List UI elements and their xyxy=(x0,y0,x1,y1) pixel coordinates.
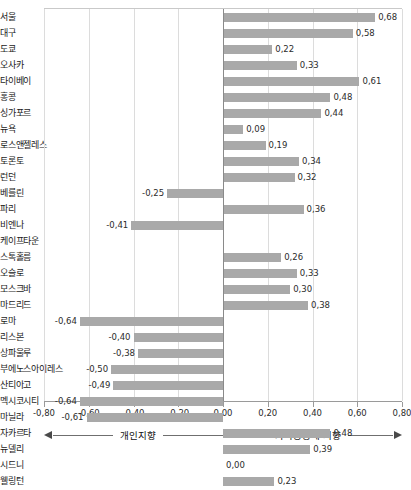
bar xyxy=(223,445,310,454)
bar-value-label: -0,25 xyxy=(142,186,164,201)
bar-value-label: 0,22 xyxy=(275,42,294,57)
bar-row: 0,23 xyxy=(44,474,402,490)
bar xyxy=(167,189,223,198)
category-label: 뉴델리 xyxy=(0,441,40,457)
bar-value-label: -0,38 xyxy=(113,346,135,361)
category-label: 싱가포르 xyxy=(0,105,40,121)
bar-value-label: 0,61 xyxy=(362,74,381,89)
bar-value-label: -0,41 xyxy=(106,218,128,233)
category-label: 로스앤젤레스 xyxy=(0,137,40,153)
bar xyxy=(223,157,299,166)
category-label: 파리 xyxy=(0,201,40,217)
bar xyxy=(223,477,274,486)
category-label: 산티아고 xyxy=(0,377,40,393)
bar-value-label: 0,48 xyxy=(333,90,352,105)
category-label: 멕시코시티 xyxy=(0,393,40,409)
category-label: 도쿄 xyxy=(0,41,40,57)
category-label: 상파울루 xyxy=(0,345,40,361)
category-label: 비엔나 xyxy=(0,217,40,233)
bar-value-label: 0,00 xyxy=(226,458,245,473)
bar-value-label: -0,50 xyxy=(86,362,108,377)
bar-value-label: 0,19 xyxy=(269,138,288,153)
bar xyxy=(223,93,330,102)
bar xyxy=(223,205,304,214)
category-label: 타이베이 xyxy=(0,73,40,89)
category-label: 마드리드 xyxy=(0,297,40,313)
category-label: 오슬로 xyxy=(0,265,40,281)
category-label: 부에노스아이레스 xyxy=(0,361,40,377)
bar-value-label: 0,48 xyxy=(333,426,352,441)
category-label: 토론토 xyxy=(0,153,40,169)
bar-value-label: 0,58 xyxy=(356,26,375,41)
bar-value-label: -0,40 xyxy=(109,330,131,345)
bar-value-label: 0,33 xyxy=(300,266,319,281)
bar xyxy=(223,253,281,262)
category-label: 대구 xyxy=(0,25,40,41)
zero-axis-line xyxy=(223,9,224,401)
category-label: 서울 xyxy=(0,9,40,25)
bar xyxy=(111,365,223,374)
category-label: 모스크바 xyxy=(0,281,40,297)
category-label: 베를린 xyxy=(0,185,40,201)
bar-value-label: 0,38 xyxy=(311,298,330,313)
bar xyxy=(223,269,297,278)
bar xyxy=(223,109,321,118)
bar-value-label: -0,64 xyxy=(55,394,77,409)
bar-value-label: 0,26 xyxy=(284,250,303,265)
bar xyxy=(223,285,290,294)
bar xyxy=(223,141,266,150)
bar xyxy=(223,125,243,134)
bar xyxy=(223,77,359,86)
bar-row: 0,00 xyxy=(44,458,402,474)
bar-value-label: 0,68 xyxy=(378,10,397,25)
category-label: 웰링턴 xyxy=(0,473,40,489)
bar-row: 0,39 xyxy=(44,442,402,458)
category-label: 자카르타 xyxy=(0,425,40,441)
category-axis-labels: 서울대구도쿄오사카타이베이홍콩싱가포르뉴욕로스앤젤레스토론토런던베를린파리비엔나… xyxy=(0,8,42,402)
bar-value-label: 0,36 xyxy=(307,202,326,217)
bar xyxy=(138,349,223,358)
bar xyxy=(223,45,272,54)
category-label: 스톡홀름 xyxy=(0,249,40,265)
bar-value-label: 0,39 xyxy=(313,442,332,457)
x-tick-mark xyxy=(402,402,403,407)
bar xyxy=(223,301,308,310)
bar xyxy=(113,381,223,390)
category-label: 로마 xyxy=(0,313,40,329)
bar xyxy=(223,61,297,70)
bar xyxy=(131,221,223,230)
category-label: 뉴욕 xyxy=(0,121,40,137)
bar xyxy=(80,317,223,326)
bar-value-label: -0,61 xyxy=(62,410,84,425)
category-label: 시드니 xyxy=(0,457,40,473)
bar-value-label: 0,34 xyxy=(302,154,321,169)
category-label: 케이프타운 xyxy=(0,233,40,249)
category-label: 홍콩 xyxy=(0,89,40,105)
bar-value-label: 0,30 xyxy=(293,282,312,297)
bar-value-label: 0,32 xyxy=(298,170,317,185)
category-label: 런던 xyxy=(0,169,40,185)
bar xyxy=(223,13,375,22)
bar-value-label: -0,49 xyxy=(88,378,110,393)
bar-value-label: 0,09 xyxy=(246,122,265,137)
bar xyxy=(223,173,295,182)
plot-area: 0,680,580,220,330,610,480,440,090,190,34… xyxy=(44,8,402,402)
category-label: 오사카 xyxy=(0,57,40,73)
bar xyxy=(80,397,223,406)
bar xyxy=(223,29,353,38)
bar-row: -0,61 xyxy=(44,410,402,426)
bar xyxy=(87,413,223,422)
bar-value-label: 0,23 xyxy=(277,474,296,489)
bar xyxy=(223,429,330,438)
bar-value-label: 0,33 xyxy=(300,58,319,73)
bar-row: 0,48 xyxy=(44,426,402,442)
bar xyxy=(134,333,224,342)
category-label: 리스본 xyxy=(0,329,40,345)
bar-value-label: -0,64 xyxy=(55,314,77,329)
bar-value-label: 0,44 xyxy=(324,106,343,121)
gridline xyxy=(402,9,403,401)
